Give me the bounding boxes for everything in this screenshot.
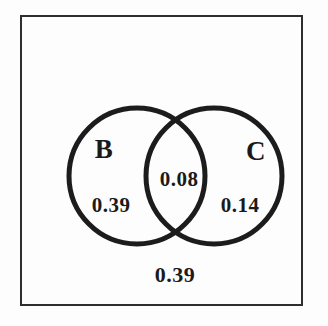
set-c-only-value: 0.14 — [221, 195, 260, 216]
venn-diagram-figure: B C 0.39 0.08 0.14 0.39 — [0, 0, 328, 326]
outside-value: 0.39 — [155, 264, 196, 286]
set-c-label: C — [246, 138, 266, 165]
intersection-value: 0.08 — [160, 169, 199, 190]
set-b-only-value: 0.39 — [92, 195, 131, 216]
set-b-label: B — [95, 136, 114, 163]
